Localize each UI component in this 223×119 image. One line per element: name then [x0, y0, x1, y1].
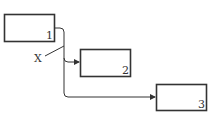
callout-label-x: X — [34, 52, 42, 65]
box-3: 3 — [157, 85, 207, 112]
box-1-label: 1 — [46, 29, 53, 42]
box-2-label: 2 — [122, 64, 129, 77]
box-3-label: 3 — [198, 98, 205, 111]
box-1: 1 — [5, 15, 55, 43]
box-2: 2 — [81, 50, 131, 78]
flow-diagram: 1 2 3 X — [0, 0, 223, 119]
callout-leader-line — [45, 46, 64, 56]
connector-1-to-2 — [54, 28, 79, 62]
connector-1-to-3 — [64, 58, 155, 97]
